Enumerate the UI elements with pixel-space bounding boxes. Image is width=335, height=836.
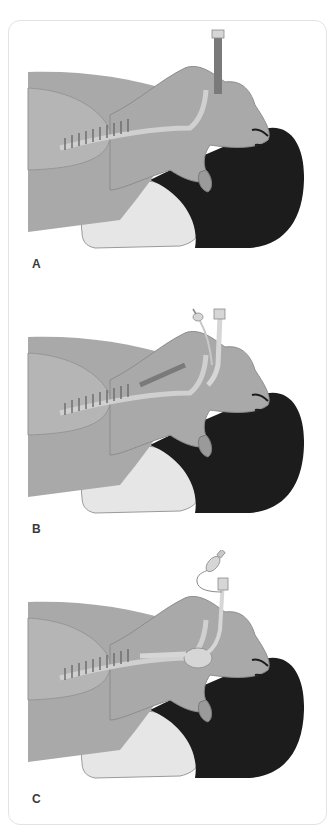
airway-illustration-a [0,20,335,280]
panel-b: B [0,285,335,545]
airway-illustration-c [0,550,335,810]
panel-label-b: B [32,522,41,536]
panel-label-a: A [32,257,41,271]
panel-a: A [0,20,335,280]
panel-c: C [0,550,335,810]
panel-label-c: C [32,792,41,806]
airway-illustration-b [0,285,335,545]
